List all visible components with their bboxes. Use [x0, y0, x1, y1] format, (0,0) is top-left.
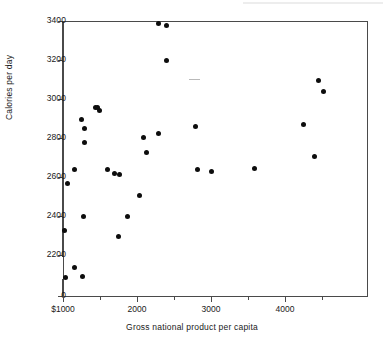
data-point: [72, 265, 77, 270]
x-axis-tick: [63, 297, 64, 302]
stray-print-mark: [189, 79, 200, 80]
y-axis-tick-label: 3400: [47, 16, 66, 25]
x-axis-tick: [322, 297, 323, 300]
plot-frame: [63, 21, 368, 297]
data-point: [193, 124, 198, 129]
data-point: [95, 105, 100, 110]
y-axis-tick-label: 2200: [47, 250, 66, 259]
data-point: [195, 167, 200, 172]
data-point: [112, 171, 117, 176]
scatter-chart: 02200240026002800300032003400$1000200030…: [0, 0, 384, 342]
x-axis-tick-label: $1000: [33, 305, 93, 314]
data-point: [72, 167, 77, 172]
data-point: [105, 167, 110, 172]
x-axis-tick: [137, 297, 138, 302]
y-axis-title: Calories per day: [4, 55, 14, 120]
data-point: [65, 181, 70, 186]
data-point: [312, 154, 317, 159]
y-axis-tick-label: 3200: [47, 55, 66, 64]
x-axis-tick: [100, 297, 101, 300]
data-point: [252, 166, 257, 171]
data-point: [117, 172, 122, 177]
x-axis-tick: [285, 297, 286, 302]
data-point: [156, 131, 161, 136]
data-point: [79, 117, 84, 122]
x-axis-tick-label: 3000: [181, 305, 241, 314]
x-axis-tick: [248, 297, 249, 300]
y-axis-tick-label: 3000: [47, 94, 66, 103]
y-axis-tick-label: 2600: [47, 172, 66, 181]
data-point: [209, 169, 214, 174]
data-point: [141, 135, 146, 140]
data-point: [301, 122, 306, 127]
data-point: [62, 228, 67, 233]
y-axis-tick-label: 2400: [47, 211, 66, 220]
x-axis-title: Gross national product per capita: [0, 322, 384, 332]
x-axis-tick-label: 2000: [107, 305, 167, 314]
x-axis-tick-label: 4000: [255, 305, 315, 314]
data-point: [82, 126, 87, 131]
page-edge-smudge: [243, 2, 383, 4]
data-point: [164, 58, 169, 63]
data-point: [125, 214, 130, 219]
x-axis-tick: [174, 297, 175, 300]
x-axis-tick: [211, 297, 212, 302]
y-axis-tick-label: 2800: [47, 133, 66, 142]
